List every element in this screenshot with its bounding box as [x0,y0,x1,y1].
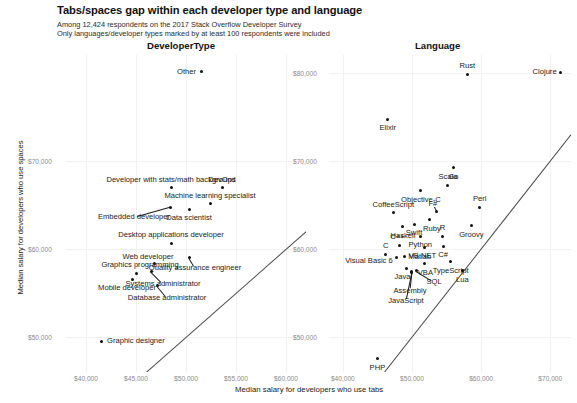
data-point-label: Matlab [408,253,431,261]
data-point-label: Desktop applications developer [118,231,224,239]
x-axis-tick: $60,000 [469,375,493,382]
x-axis-tick: $70,000 [538,375,562,382]
data-point[interactable] [170,186,173,189]
gridline-horizontal [329,337,571,338]
data-point-label: C [383,242,388,250]
gridline-vertical [481,55,482,372]
x-axis-tick: $45,000 [124,375,148,382]
data-point-label: CoffeeScript [372,201,414,209]
data-point[interactable] [470,224,473,227]
data-point-label: C++ [390,233,404,241]
y-axis-tick: $60,000 [28,245,52,252]
label-leader-line [559,72,560,73]
x-axis-label: Median salary for developers who use tab… [235,385,383,394]
data-point-label: Embedded developer [98,213,170,221]
data-point[interactable] [131,278,134,281]
data-point-label: Groovy [459,231,483,239]
data-point[interactable] [395,256,398,259]
data-point-label: Elixir [380,124,396,132]
y-axis-tick: $50,000 [28,333,52,340]
data-point[interactable] [413,223,416,226]
data-point[interactable] [376,357,379,360]
data-point[interactable] [449,260,452,263]
x-axis-tick: $40,000 [74,375,98,382]
data-point-label: Scala [438,173,457,181]
data-point-label: Clojure [533,68,557,76]
data-point-label: Database administrator [128,294,207,302]
data-point-label: DevOps [208,176,235,184]
gridline-vertical [236,55,237,372]
data-point[interactable] [170,242,173,245]
data-point[interactable] [466,73,469,76]
gridline-vertical [286,55,287,372]
data-point[interactable] [221,186,224,189]
data-point[interactable] [100,340,103,343]
y-axis-tick: $50,000 [293,333,317,340]
gridline-horizontal [329,249,571,250]
data-point[interactable] [209,202,212,205]
facet-strip: DeveloperType Language [0,40,577,54]
data-point[interactable] [200,70,203,73]
data-point-label: Other [177,68,196,76]
data-point-label: Machine learning specialist [164,192,255,200]
data-point-label: R [440,224,445,232]
gridline-vertical [86,55,87,372]
data-point[interactable] [386,118,389,121]
x-axis-tick: $50,000 [174,375,198,382]
data-point-label: Visual Basic 6 [345,257,393,265]
data-point[interactable] [401,225,404,228]
data-point-label: Graphics programming [101,261,178,269]
data-point-label: Data scientist [166,214,212,222]
scatter-plot: DeveloperType Language OtherDeveloper wi… [0,0,577,403]
data-point[interactable] [452,166,455,169]
panel-language: RustClojureElixirGoScalaObjective-CPerlF… [329,55,571,372]
gridline-vertical [412,55,413,372]
data-point-label: Ruby [423,225,441,233]
data-point[interactable] [405,267,408,270]
data-point[interactable] [441,235,444,238]
x-axis-tick: $60,000 [274,375,298,382]
data-point[interactable] [423,262,426,265]
data-point-label: C# [438,251,448,259]
data-point[interactable] [398,244,401,247]
data-point-label: PHP [370,364,386,372]
data-point[interactable] [392,211,395,214]
gridline-horizontal [329,161,571,162]
data-point[interactable] [188,208,191,211]
data-point-label: Perl [473,195,487,203]
gridline-vertical [550,55,551,372]
data-point-label: Java [394,273,410,281]
panel-developertype: OtherDeveloper with stats/math backgroun… [66,55,306,372]
data-point[interactable] [419,189,422,192]
data-point-label: Mobile developer [98,284,156,292]
facet-label-language: Language [415,40,460,51]
data-point[interactable] [419,235,422,238]
data-point-label: Rust [459,62,475,70]
data-point-label: Python [408,241,432,249]
y-axis-tick: $80,000 [293,69,317,76]
gridline-vertical [343,55,344,372]
data-point[interactable] [135,272,138,275]
y-axis-tick: $70,000 [28,157,52,164]
data-point[interactable] [403,255,406,258]
data-point-label: Lua [456,276,469,284]
data-point[interactable] [446,184,449,187]
y-axis-tick: $70,000 [293,157,317,164]
x-axis-tick: $40,000 [331,375,355,382]
y-axis-label: Median salary for developers who use spa… [16,138,25,298]
data-point-label: Graphic designer [107,337,165,345]
x-axis-tick: $55,000 [224,375,248,382]
x-axis-tick: $50,000 [400,375,424,382]
facet-label-developertype: DeveloperType [147,40,215,51]
data-point-label: JavaScript [388,297,423,305]
data-point[interactable] [428,218,431,221]
y-axis-tick: $60,000 [293,245,317,252]
